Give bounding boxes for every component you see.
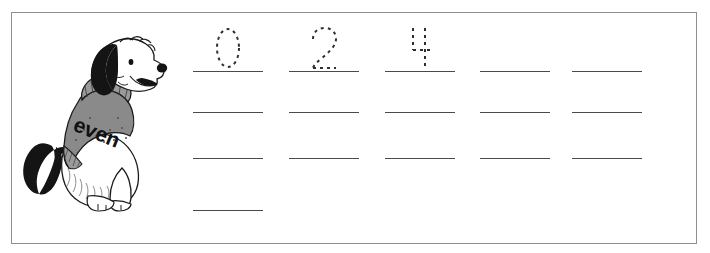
practice-slot-r1c4[interactable] xyxy=(480,26,550,72)
practice-slot-r2c2[interactable] xyxy=(289,67,359,113)
practice-slot-r3c4[interactable] xyxy=(480,113,550,159)
practice-line-grid xyxy=(0,0,710,253)
practice-slot-r3c3[interactable] xyxy=(385,113,455,159)
answer-line[interactable] xyxy=(193,210,263,211)
answer-line[interactable] xyxy=(385,158,455,159)
traced-digit-zero xyxy=(193,26,263,70)
answer-line[interactable] xyxy=(572,158,642,159)
worksheet-page: even xyxy=(0,0,710,253)
practice-slot-r2c1[interactable] xyxy=(193,67,263,113)
answer-line[interactable] xyxy=(480,158,550,159)
answer-line[interactable] xyxy=(193,158,263,159)
practice-slot-r1c2[interactable] xyxy=(289,26,359,72)
practice-slot-r3c1[interactable] xyxy=(193,113,263,159)
practice-slot-r2c5[interactable] xyxy=(572,67,642,113)
practice-slot-r3c5[interactable] xyxy=(572,113,642,159)
answer-line[interactable] xyxy=(289,158,359,159)
traced-digit-four xyxy=(385,26,455,70)
practice-slot-r4c1[interactable] xyxy=(193,165,263,211)
practice-slot-r1c5[interactable] xyxy=(572,26,642,72)
practice-slot-r3c2[interactable] xyxy=(289,113,359,159)
traced-digit-two xyxy=(289,26,359,70)
practice-slot-r2c4[interactable] xyxy=(480,67,550,113)
practice-slot-r1c1[interactable] xyxy=(193,26,263,72)
practice-slot-r1c3[interactable] xyxy=(385,26,455,72)
practice-slot-r2c3[interactable] xyxy=(385,67,455,113)
